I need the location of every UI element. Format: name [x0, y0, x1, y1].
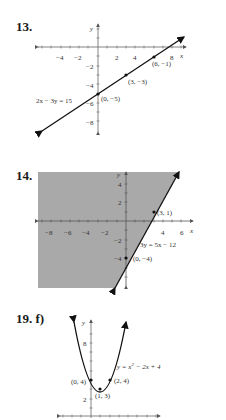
x-tick: −4 [56, 54, 64, 62]
x-tick: −8 [45, 229, 53, 237]
point-label: (0, −5) [101, 95, 121, 103]
point-0-4 [89, 378, 92, 381]
equation-label: 2x − 3y = 15 [36, 97, 72, 105]
x-tick: 4 [133, 54, 137, 62]
x-axis-label: x [179, 52, 184, 60]
point-label: (1, 3) [95, 392, 111, 400]
equation-label: y = x2 − 2x + 4 [116, 362, 161, 371]
point-2-4 [108, 378, 111, 381]
y-tick: 2 [83, 396, 87, 404]
line-2x-3y-15 [42, 37, 184, 131]
y-tick: 8 [83, 340, 87, 348]
y-tick: −4 [114, 255, 122, 263]
y-axis-label: y [89, 25, 94, 33]
point-label: (2, 4) [114, 377, 130, 385]
point-6-neg1 [152, 55, 155, 58]
y-tick: −2 [86, 63, 94, 71]
point-3-1 [152, 210, 155, 213]
x-tick: −2 [74, 54, 82, 62]
y-tick: −4 [86, 82, 94, 90]
x-tick: 4 [161, 229, 165, 237]
x-tick: −4 [82, 229, 90, 237]
graphs-canvas: y x −4 −2 2 4 8 −2 −4 −6 −8 (6, −1) (3, … [0, 0, 226, 420]
y-tick: −2 [114, 237, 122, 245]
graph-14: y x −8 −6 −4 −2 4 6 4 2 −2 −4 (3, 1) (0,… [38, 171, 194, 288]
x-tick: −6 [64, 229, 72, 237]
x-tick: 2 [115, 54, 119, 62]
x-axis-label: x [189, 227, 194, 235]
y-tick: −8 [86, 119, 94, 127]
x-tick: 6 [180, 229, 184, 237]
y-tick: 4 [118, 181, 122, 189]
x-tick: −2 [101, 229, 109, 237]
point-label: (0, −4) [133, 255, 153, 263]
point-0-neg5 [96, 92, 99, 95]
graph-13: y x −4 −2 2 4 8 −2 −4 −6 −8 (6, −1) (3, … [36, 24, 186, 132]
point-label: (3, −3) [128, 78, 148, 86]
y-tick: 2 [118, 199, 122, 207]
graph-19f: y 8 2 (0, 4) (2, 4) (1, 3) y = x2 − 2x +… [60, 319, 161, 418]
point-label: (6, −1) [152, 60, 172, 68]
point-1-3 [98, 387, 101, 390]
shaded-region [38, 172, 179, 288]
y-axis-label: y [81, 319, 86, 327]
point-0-neg4 [124, 256, 127, 259]
point-3-neg3 [124, 73, 127, 76]
point-label: (3, 1) [157, 209, 173, 217]
point-label: (0, 4) [71, 378, 87, 386]
equation-label: 3y = 5x − 12 [140, 241, 176, 249]
